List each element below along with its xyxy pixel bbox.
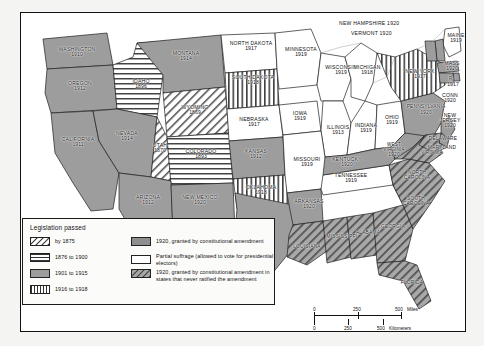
legend-label-1916-1918: 1916 to 1918 [55,286,88,293]
state-northcarolina [389,159,445,205]
legend-item-1920-amendment[interactable]: 1920, granted by constitutional amendmen… [131,237,264,246]
scale-tick-left-km [314,319,315,325]
state-louisiana [287,221,327,265]
state-nebraska [227,105,283,141]
legend-swatch-horizontal-lines [30,253,50,262]
legend-swatch-gray-diagonal-hatch [131,269,151,278]
state-washington [43,33,113,69]
legend-label-partial-suffrage: Partial suffrage (allowed to vote for pr… [156,253,274,267]
legend-label-by-1875: by 1875 [55,238,75,245]
legend-swatch-vertical-lines [30,285,50,294]
scale-tick-left [314,312,315,319]
map-legend: Legislation passed by 1875 1876 to 1900 … [22,218,275,305]
scale-tick-mid-km [348,319,349,325]
state-southdakota [225,69,279,109]
legend-item-partial-suffrage[interactable]: Partial suffrage (allowed to vote for pr… [131,253,274,267]
state-florida [377,261,431,309]
map-scale-bar: 0 250 500 Miles 0 250 500 Kilometers [313,307,433,332]
state-ri [453,73,460,81]
scale-km-tick-500: 500 [377,326,385,331]
state-alabama [347,213,377,259]
scale-tick-right-km [383,319,384,325]
state-wyoming [163,87,229,137]
map-frame: WASHINGTON 1910 OREGON 1912 IDAHO 1896 M… [20,12,466,332]
legend-label-1876-1900: 1876 to 1900 [55,254,88,261]
state-michigan [345,43,377,101]
state-illinois [321,101,351,157]
state-vermont [425,41,437,61]
map-figure: WASHINGTON 1910 OREGON 1912 IDAHO 1896 M… [0,0,484,346]
state-northdakota [221,33,277,73]
state-minnesota [275,29,321,89]
legend-item-1916-1918[interactable]: 1916 to 1918 [30,285,88,294]
state-kansas [229,137,285,179]
legend-swatch-solid-gray [30,269,50,278]
scale-miles-unit: Miles [407,307,418,312]
state-arkansas [287,189,323,225]
state-indiana [347,101,377,155]
legend-title: Legislation passed [30,224,86,231]
legend-item-by-1875[interactable]: by 1875 [30,237,75,246]
legend-label-1920-amendment: 1920, granted by constitutional amendmen… [156,238,264,245]
state-mass [437,61,459,73]
scale-tick-mid-miles [358,312,359,319]
scale-tick-right [401,312,402,319]
state-conn [439,73,454,83]
legend-swatch-diagonal-hatch [30,237,50,246]
state-oregon [45,65,117,113]
legend-item-never-ratified[interactable]: 1920, granted by constitutional amendmen… [131,269,274,283]
state-colorado [167,133,233,185]
legend-swatch-white [131,255,151,264]
state-iowa [279,101,321,135]
legend-label-never-ratified: 1920, granted by constitutional amendmen… [156,269,274,283]
state-mississippi [323,217,351,263]
legend-label-1901-1915: 1901 to 1915 [55,270,88,277]
scale-miles-tick-250: 250 [353,307,361,312]
scale-km-tick-250: 250 [344,326,352,331]
legend-item-1876-1900[interactable]: 1876 to 1900 [30,253,88,262]
scale-km-unit: Kilometers [389,326,411,331]
scale-km-tick-0: 0 [313,326,316,331]
state-maine [443,27,461,57]
legend-item-1901-1915[interactable]: 1901 to 1915 [30,269,88,278]
legend-swatch-1920-gray [131,237,151,246]
